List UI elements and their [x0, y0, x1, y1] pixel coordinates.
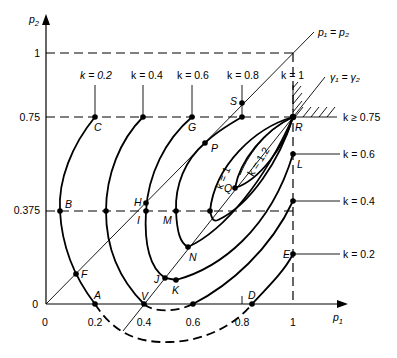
label-k0.4-right: k = 0.4: [343, 195, 375, 207]
x-tick-1: 1: [290, 316, 296, 328]
point-label-S: S: [230, 95, 237, 107]
point-label-B: B: [65, 198, 72, 210]
label-k-ge-0.75: k ≥ 0.75: [343, 111, 380, 123]
contour-k0.4-right: [193, 201, 293, 304]
contour-k0.4-dashed: [144, 304, 193, 310]
point-label-E: E: [283, 248, 291, 260]
label-p1-equals-p2: p₁ = p₂: [317, 26, 349, 38]
x-tick-0.6: 0.6: [186, 316, 201, 328]
point-label-P: P: [211, 142, 218, 154]
point-label-J: J: [153, 273, 160, 285]
point-label-V: V: [141, 290, 149, 302]
contour-k0.2-right: [252, 254, 293, 304]
x-tick-0.4: 0.4: [137, 316, 152, 328]
point-label-L: L: [297, 158, 303, 170]
y-axis-arrow-icon: [42, 14, 50, 25]
y-tick-0.375: 0.375: [14, 204, 40, 216]
point-label-Q: Q: [224, 182, 232, 194]
label-k0.6-right: k = 0.6: [343, 148, 375, 160]
label-k0.8-top: k = 0.8: [227, 69, 259, 81]
x-axis-arrow-icon: [337, 300, 348, 308]
y-tick-0: 0: [32, 298, 38, 310]
hatched-region: [293, 82, 337, 117]
point-label-F: F: [81, 268, 88, 280]
y-tick-0.75: 0.75: [20, 111, 41, 123]
x-tick-0.2: 0.2: [88, 316, 103, 328]
y-axis-label: p2: [28, 13, 40, 28]
contour-k0.6: [146, 117, 293, 280]
x-axis-label: p1: [332, 311, 343, 326]
label-k1-top: k = 1: [281, 69, 304, 81]
point-label-N: N: [189, 251, 197, 263]
point-label-M: M: [163, 214, 172, 226]
point-label-H: H: [134, 196, 142, 208]
label-k0.2-right: k = 0.2: [343, 248, 375, 260]
point-label-C: C: [94, 121, 102, 133]
label-k0.6-top: k = 0.6: [177, 69, 209, 81]
label-k0.4-top: k = 0.4: [131, 69, 163, 81]
diagram-canvas: p2 p1 0 0.375 0.75 1 0 0.2 0.4 0.6 0.8 1…: [0, 0, 397, 358]
point-label-A: A: [93, 289, 101, 301]
label-gamma1-equals-gamma2: γ₁ = γ₂: [330, 71, 360, 83]
point-label-D: D: [248, 289, 256, 301]
contour-k0.8: [176, 117, 293, 247]
point-label-R: R: [295, 121, 303, 133]
label-k0.2-top: k = 0.2: [80, 69, 112, 81]
point-label-G: G: [188, 121, 196, 133]
x-tick-0: 0: [42, 316, 48, 328]
point-label-K: K: [172, 284, 180, 296]
point-label-I: I: [137, 214, 140, 226]
y-tick-1: 1: [34, 47, 40, 59]
label-stems: [95, 85, 340, 254]
